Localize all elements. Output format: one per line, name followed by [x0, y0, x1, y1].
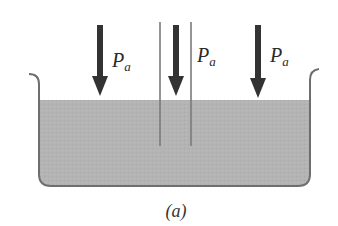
pressure-label-tube: Pa	[196, 44, 216, 69]
arrow-down-icon	[168, 25, 184, 96]
arrow-down-icon	[92, 25, 108, 96]
pressure-label-left: Pa	[111, 49, 131, 74]
figure-caption: (a)	[166, 201, 187, 222]
arrow-down-icon	[250, 25, 266, 98]
pressure-label-right: Pa	[269, 44, 289, 69]
manometer-diagram: Pa Pa Pa (a)	[0, 0, 338, 226]
liquid	[39, 100, 310, 186]
